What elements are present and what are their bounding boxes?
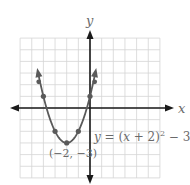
equation-eq: = ( — [101, 130, 123, 144]
x-axis-right-arrow-icon — [165, 105, 174, 112]
data-point — [92, 79, 97, 84]
equation-label: y = (x + 2)2 − 3 — [93, 129, 190, 144]
y-axis-bottom-arrow-icon — [87, 175, 94, 184]
data-point — [52, 129, 57, 134]
data-point — [36, 79, 41, 84]
axes — [10, 30, 174, 184]
data-point — [76, 129, 81, 134]
x-axis-label: x — [178, 101, 186, 116]
equation-rest: + 2) — [130, 130, 160, 144]
vertex-label: (−2, −3) — [49, 147, 97, 160]
parabola-graph: y x y = (x + 2)2 − 3 (−2, −3) — [0, 0, 190, 185]
y-axis-top-arrow-icon — [87, 30, 94, 39]
x-axis-left-arrow-icon — [10, 105, 19, 112]
data-point — [87, 94, 92, 99]
y-axis-label: y — [85, 13, 94, 28]
data-point — [41, 94, 46, 99]
equation-tail: − 3 — [165, 130, 190, 144]
data-point — [64, 140, 69, 145]
